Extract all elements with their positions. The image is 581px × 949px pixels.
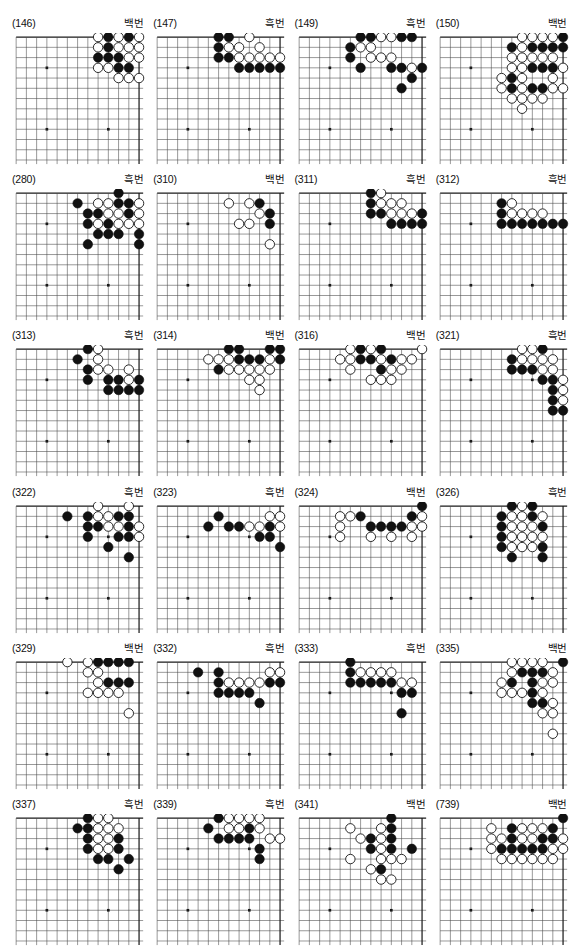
star-point (328, 847, 331, 850)
white-stone (124, 365, 133, 374)
black-stone (507, 834, 516, 843)
black-stone (396, 688, 405, 697)
white-stone (114, 824, 123, 833)
white-stone (93, 511, 102, 520)
black-stone (124, 854, 133, 863)
turn-label: 흑번 (406, 16, 425, 31)
white-stone (548, 73, 557, 82)
white-stone (134, 53, 143, 62)
black-stone (265, 209, 274, 218)
white-stone (93, 355, 102, 364)
diagram-caption: (314)백번 (151, 330, 288, 345)
black-stone (527, 844, 536, 853)
black-stone (538, 63, 547, 72)
white-stone (224, 824, 233, 833)
problem-number: (739) (436, 797, 460, 812)
black-stone (265, 532, 274, 541)
black-stone (376, 865, 385, 874)
white-stone (558, 375, 567, 384)
white-stone (255, 521, 264, 530)
star-point (328, 440, 331, 443)
black-stone (124, 386, 133, 395)
black-stone (255, 698, 264, 707)
problem-number: (316) (295, 328, 319, 343)
black-stone (214, 511, 223, 520)
diagram-caption: (337)흑번 (10, 799, 147, 814)
white-stone (265, 511, 274, 520)
white-stone (376, 667, 385, 676)
white-stone (376, 375, 385, 384)
star-point (107, 128, 110, 131)
black-stone (83, 824, 92, 833)
white-stone (265, 834, 274, 843)
white-stone (93, 63, 102, 72)
white-stone (345, 355, 354, 364)
white-stone (548, 844, 557, 853)
turn-label: 백번 (406, 797, 425, 812)
star-point (531, 379, 534, 382)
white-stone (355, 834, 364, 843)
problem-number: (339) (153, 797, 177, 812)
white-stone (407, 355, 416, 364)
star-point (46, 909, 49, 912)
white-stone (255, 365, 264, 374)
black-stone (83, 240, 92, 249)
white-stone (407, 532, 416, 541)
black-stone (355, 355, 364, 364)
black-stone (93, 854, 102, 863)
white-stone (527, 824, 536, 833)
black-stone (396, 84, 405, 93)
star-point (187, 128, 190, 131)
black-stone (417, 502, 426, 511)
black-stone (386, 824, 395, 833)
go-board (151, 814, 288, 949)
white-stone (124, 219, 133, 228)
diagram-cell: (332)흑번 (151, 643, 288, 793)
white-stone (497, 688, 506, 697)
white-stone (345, 365, 354, 374)
black-stone (417, 63, 426, 72)
black-stone (265, 345, 274, 354)
diagram-cell: (324)백번 (293, 487, 430, 637)
white-stone (235, 824, 244, 833)
white-stone (538, 511, 547, 520)
white-stone (517, 73, 526, 82)
problem-number: (149) (295, 16, 319, 31)
star-point (328, 66, 331, 69)
black-stone (527, 502, 536, 511)
black-stone (527, 219, 536, 228)
white-stone (386, 375, 395, 384)
board-grid-lines (16, 818, 143, 945)
white-stone (376, 199, 385, 208)
black-stone (104, 658, 113, 667)
go-board (10, 502, 147, 637)
white-stone (366, 532, 375, 541)
turn-label: 흑번 (265, 16, 284, 31)
white-stone (376, 834, 385, 843)
diagram-cell: (326)흑번 (434, 487, 571, 637)
white-stone (386, 875, 395, 884)
white-stone (104, 824, 113, 833)
black-stone (114, 865, 123, 874)
black-stone (517, 667, 526, 676)
black-stone (124, 552, 133, 561)
black-stone (214, 365, 223, 374)
black-stone (93, 521, 102, 530)
star-point (46, 753, 49, 756)
white-stone (497, 854, 506, 863)
white-stone (548, 708, 557, 717)
black-stone (507, 844, 516, 853)
go-board (10, 814, 147, 949)
star-point (389, 597, 392, 600)
star-point (46, 379, 49, 382)
white-stone (376, 355, 385, 364)
diagram-caption: (739)백번 (434, 799, 571, 814)
black-stone (396, 219, 405, 228)
black-stone (214, 834, 223, 843)
black-stone (245, 834, 254, 843)
black-stone (276, 355, 285, 364)
black-stone (214, 678, 223, 687)
white-stone (376, 875, 385, 884)
star-point (248, 753, 251, 756)
white-stone (245, 678, 254, 687)
